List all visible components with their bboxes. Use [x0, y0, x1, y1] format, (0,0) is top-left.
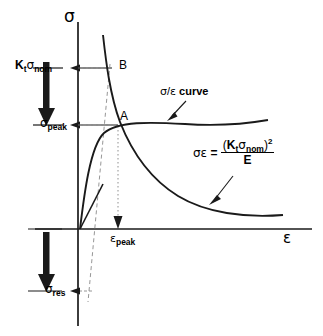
- sigma-epsilon-curve-label: σ/ε curve: [160, 86, 208, 97]
- arrowhead-epsilon-peak: [114, 216, 123, 229]
- eq-equals: =: [210, 146, 217, 160]
- kt-sigma-nom-label: Ktσnom: [15, 59, 52, 71]
- epsilon-axis-label: ε: [283, 231, 291, 246]
- eq-lhs-sigma: σ: [193, 146, 201, 160]
- eq-denominator: E: [221, 154, 275, 166]
- leader-equation: [209, 176, 233, 205]
- point-b-label: B: [119, 59, 127, 71]
- leader-curve-label: [167, 101, 186, 121]
- sigma-res-symbol: σ: [45, 282, 53, 296]
- sigma-res-label: σres: [45, 283, 65, 295]
- curve-sigma: σ: [160, 85, 167, 98]
- eq-k-subscript: t: [235, 144, 238, 154]
- epsilon-peak-subscript: peak: [116, 237, 135, 247]
- eq-numerator: (Ktσnom)2: [221, 139, 275, 151]
- sigma-peak-symbol: σ: [40, 116, 48, 130]
- eq-fraction: (Ktσnom)2 E: [221, 139, 275, 166]
- curve-word: curve: [179, 85, 208, 97]
- sigma-axis-label: σ: [64, 8, 75, 25]
- neuber-hyperbola: [103, 35, 283, 216]
- kt-k: K: [15, 58, 24, 72]
- eq-lhs-epsilon: ε: [201, 146, 208, 160]
- sigma-peak-subscript: peak: [48, 122, 67, 132]
- curve-epsilon: ε: [170, 85, 176, 98]
- sigma-res-subscript: res: [53, 288, 66, 298]
- kt-sigma: σ: [27, 58, 35, 72]
- kt-k-subscript: t: [24, 64, 27, 74]
- unloading-dashed-line: [88, 64, 110, 302]
- eq-sigma-subscript: nom: [246, 144, 264, 154]
- eq-sigma: σ: [238, 138, 246, 152]
- neuber-equation: σε = (Ktσnom)2 E: [193, 140, 274, 167]
- sigma-epsilon-curve: [80, 120, 268, 229]
- eq-exponent: 2: [268, 137, 272, 146]
- sigma-peak-label: σpeak: [40, 117, 67, 129]
- kt-sigma-subscript: nom: [34, 64, 52, 74]
- epsilon-peak-label: εpeak: [110, 233, 135, 244]
- point-a-label: A: [120, 110, 128, 122]
